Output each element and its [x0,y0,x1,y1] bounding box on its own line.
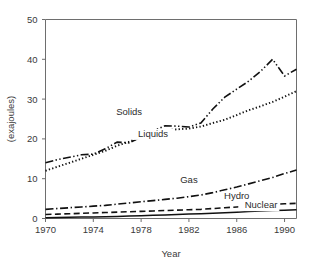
x-tick-label: 1990 [274,224,295,235]
y-tick-label: 40 [27,54,38,65]
y-tick-label: 0 [32,213,37,224]
y-tick-label: 50 [27,14,38,25]
energy-consumption-line-chart: 01020304050 197019741978198219861990 Sol… [0,0,313,273]
y-tick-label: 30 [27,94,38,105]
series-label-gas: Gas [180,174,198,185]
y-tick-label: 10 [27,173,38,184]
x-tick-label: 1982 [178,224,199,235]
series-label-liquids: Liquids [138,128,168,139]
x-tick-label: 1986 [226,224,247,235]
y-axis-title: (exajoules) [5,96,16,142]
x-tick-label: 1978 [131,224,152,235]
x-tick-label: 1974 [83,224,104,235]
x-axis-title: Year [161,248,180,259]
x-tick-label: 1970 [35,224,56,235]
chart-canvas: 01020304050 197019741978198219861990 Sol… [0,0,313,273]
y-tick-label: 20 [27,133,38,144]
series-label-nuclear: Nuclear [245,199,278,210]
series-label-solids: Solids [116,106,142,117]
